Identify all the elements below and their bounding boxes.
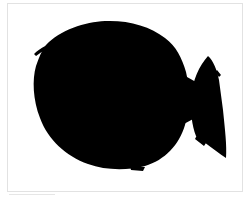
fish-tail [191,56,227,158]
fish-silhouette-icon [0,0,250,199]
fish-bottom-stroke [130,166,145,171]
fish-ink [34,21,227,171]
